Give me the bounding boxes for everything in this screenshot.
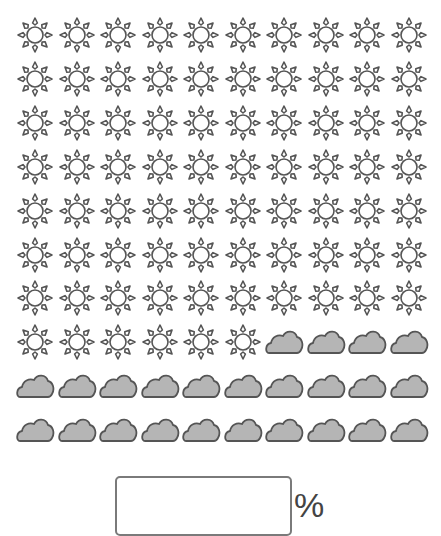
sun-icon [264, 103, 304, 143]
sun-icon [223, 15, 263, 55]
sun-icon [140, 59, 180, 99]
sun-icon [181, 235, 221, 275]
sun-icon [98, 103, 138, 143]
sun-icon [389, 191, 429, 231]
sun-icon [389, 235, 429, 275]
sun-icon [181, 147, 221, 187]
sun-icon [98, 278, 138, 318]
sun-icon [306, 103, 346, 143]
sun-icon [223, 191, 263, 231]
sun-icon [57, 191, 97, 231]
cloud-icon [264, 322, 304, 362]
cloud-icon [15, 410, 55, 450]
sun-icon [306, 59, 346, 99]
sun-icon [15, 15, 55, 55]
sun-icon [347, 59, 387, 99]
sun-icon [389, 15, 429, 55]
cloud-icon [98, 410, 138, 450]
sun-icon [223, 147, 263, 187]
sun-icon [306, 15, 346, 55]
sun-icon [264, 59, 304, 99]
cloud-icon [98, 366, 138, 406]
sun-icon [389, 147, 429, 187]
sun-icon [264, 235, 304, 275]
cloud-icon [181, 410, 221, 450]
sun-icon [57, 147, 97, 187]
cloud-icon [181, 366, 221, 406]
sun-icon [264, 15, 304, 55]
sun-icon [223, 322, 263, 362]
sun-icon [15, 322, 55, 362]
cloud-icon [223, 366, 263, 406]
sun-icon [98, 235, 138, 275]
sun-icon [306, 147, 346, 187]
cloud-icon [57, 366, 97, 406]
sun-icon [223, 278, 263, 318]
sun-icon [181, 322, 221, 362]
sun-icon [306, 235, 346, 275]
cloud-icon [389, 322, 429, 362]
sun-icon [57, 278, 97, 318]
cloud-icon [223, 410, 263, 450]
sun-icon [140, 322, 180, 362]
answer-input-box[interactable] [115, 476, 292, 536]
sun-icon [264, 147, 304, 187]
sun-icon [57, 59, 97, 99]
sun-icon [306, 191, 346, 231]
cloud-icon [347, 322, 387, 362]
sun-icon [389, 59, 429, 99]
cloud-icon [347, 366, 387, 406]
cloud-icon [264, 410, 304, 450]
sun-icon [181, 191, 221, 231]
sun-icon [223, 235, 263, 275]
sun-icon [57, 235, 97, 275]
sun-icon [223, 103, 263, 143]
sun-icon [140, 103, 180, 143]
cloud-icon [347, 410, 387, 450]
sun-icon [347, 278, 387, 318]
sun-icon [264, 278, 304, 318]
sun-cloud-grid [0, 0, 441, 460]
sun-icon [140, 15, 180, 55]
cloud-icon [306, 410, 346, 450]
sun-icon [57, 103, 97, 143]
sun-icon [223, 59, 263, 99]
sun-icon [347, 191, 387, 231]
sun-icon [98, 147, 138, 187]
sun-icon [15, 147, 55, 187]
sun-icon [347, 15, 387, 55]
sun-icon [181, 59, 221, 99]
sun-icon [98, 191, 138, 231]
sun-icon [140, 278, 180, 318]
cloud-icon [15, 366, 55, 406]
percent-label: % [294, 488, 324, 522]
cloud-icon [306, 322, 346, 362]
sun-icon [140, 147, 180, 187]
sun-icon [347, 103, 387, 143]
sun-icon [389, 103, 429, 143]
sun-icon [181, 15, 221, 55]
sun-icon [98, 15, 138, 55]
sun-icon [140, 191, 180, 231]
sun-icon [15, 59, 55, 99]
sun-icon [57, 322, 97, 362]
sun-icon [57, 15, 97, 55]
sun-icon [140, 235, 180, 275]
cloud-icon [389, 366, 429, 406]
cloud-icon [389, 410, 429, 450]
sun-icon [98, 322, 138, 362]
sun-icon [181, 278, 221, 318]
cloud-icon [264, 366, 304, 406]
sun-icon [347, 147, 387, 187]
sun-icon [98, 59, 138, 99]
sun-icon [15, 191, 55, 231]
cloud-icon [306, 366, 346, 406]
cloud-icon [140, 366, 180, 406]
sun-icon [264, 191, 304, 231]
cloud-icon [140, 410, 180, 450]
sun-icon [347, 235, 387, 275]
sun-icon [389, 278, 429, 318]
sun-icon [15, 278, 55, 318]
sun-icon [15, 103, 55, 143]
sun-icon [15, 235, 55, 275]
